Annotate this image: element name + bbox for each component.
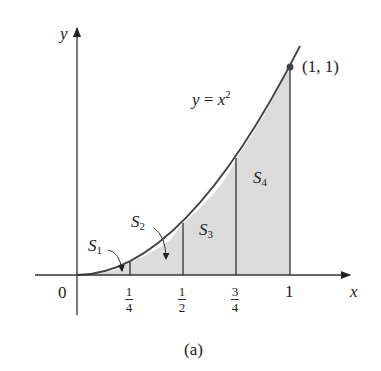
tick-label-one-half: 1 2 — [178, 285, 186, 314]
tick-numerator: 3 — [232, 285, 239, 298]
curve-equation-label: y = x2 — [192, 88, 231, 110]
point-label: (1, 1) — [302, 57, 339, 77]
tick-denominator: 2 — [179, 301, 186, 314]
s-letter: S — [199, 220, 208, 239]
tick-denominator: 4 — [126, 301, 133, 314]
strip-label-s4: S4 — [253, 168, 267, 188]
s-subscript: 3 — [208, 228, 214, 240]
eq-y: y — [192, 90, 200, 109]
s-subscript: 2 — [140, 220, 146, 232]
tick-label-three-quarters: 3 4 — [231, 285, 239, 314]
s-letter: S — [253, 168, 262, 187]
plot-canvas — [0, 0, 381, 371]
tick-label-one: 1 — [285, 282, 294, 302]
strip-label-s2: S2 — [131, 212, 145, 232]
s-subscript: 1 — [97, 244, 103, 256]
eq-exponent: 2 — [225, 88, 231, 100]
point-1-1 — [287, 64, 294, 71]
tick-numerator: 1 — [126, 285, 133, 298]
tick-denominator: 4 — [232, 301, 239, 314]
origin-label: 0 — [58, 283, 67, 303]
s-letter: S — [88, 236, 97, 255]
x-axis-label: x — [350, 282, 358, 302]
s-subscript: 4 — [262, 176, 268, 188]
figure-caption: (a) — [184, 340, 203, 360]
tick-numerator: 1 — [179, 285, 186, 298]
y-axis-label: y — [60, 24, 68, 44]
strip-label-s3: S3 — [199, 220, 213, 240]
tick-label-one-quarter: 1 4 — [125, 285, 133, 314]
strip-label-s1: S1 — [88, 236, 102, 256]
s-letter: S — [131, 212, 140, 231]
eq-equals: = — [200, 90, 218, 109]
